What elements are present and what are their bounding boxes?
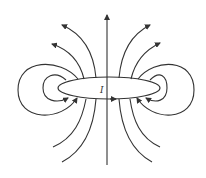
field-line-lower-right-2 bbox=[130, 99, 160, 147]
current-label: I bbox=[99, 85, 104, 95]
field-line-left-inner bbox=[43, 75, 68, 101]
field-line-upper-right-2 bbox=[131, 43, 160, 79]
field-line-upper-left-2 bbox=[52, 44, 84, 79]
current-loop bbox=[58, 77, 160, 99]
field-diagram: I bbox=[0, 0, 206, 178]
field-line-right-outer bbox=[137, 64, 194, 115]
field-line-upper-right-1 bbox=[119, 25, 150, 78]
field-line-right-inner bbox=[146, 75, 167, 101]
field-line-left-outer bbox=[18, 64, 78, 115]
